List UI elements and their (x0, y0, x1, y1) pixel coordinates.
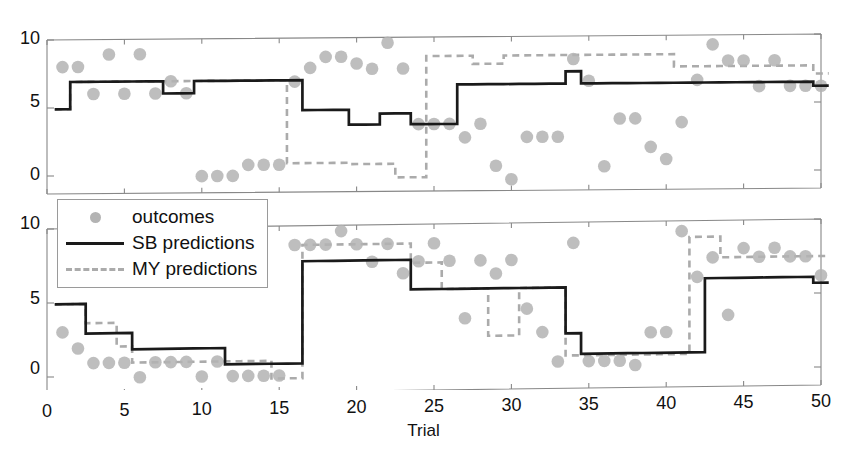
legend-item-my: MY predictions (64, 256, 259, 282)
outcome-point (412, 255, 425, 268)
outcome-point (583, 74, 596, 87)
outcome-point (103, 357, 116, 370)
top-ytick-10: 10 (4, 28, 40, 49)
outcome-point (737, 242, 750, 255)
outcome-point (613, 112, 626, 125)
series-outcomes (56, 37, 827, 186)
outcome-point (474, 254, 487, 267)
outcome-point (490, 159, 503, 172)
outcome-point (273, 158, 286, 171)
outcome-point (737, 54, 750, 67)
outcome-point (72, 61, 85, 74)
outcome-point (165, 75, 178, 88)
series-my-predictions (55, 54, 829, 177)
outcome-point (103, 48, 116, 61)
outcome-point (149, 87, 162, 100)
outcome-point (226, 170, 239, 183)
outcome-point (273, 369, 286, 382)
outcome-point (660, 326, 673, 339)
x-axis-title: Trial (0, 421, 847, 441)
outcome-point (722, 54, 735, 67)
top-ytick-5: 5 (4, 91, 40, 112)
outcome-point (459, 312, 472, 325)
x-tick-label-10: 10 (182, 399, 222, 420)
outcome-point (196, 370, 209, 383)
outcome-point (118, 88, 131, 101)
legend: outcomes SB predictions MY predictions (57, 199, 268, 288)
x-tick-label-15: 15 (259, 398, 299, 419)
legend-label-outcomes: outcomes (126, 206, 214, 228)
outcome-point (629, 359, 642, 372)
outcome-point (288, 239, 301, 252)
x-tick-label-30: 30 (491, 395, 531, 416)
outcome-point (304, 62, 317, 75)
outcome-point (706, 38, 719, 51)
outcome-point (397, 267, 410, 280)
outcome-point (428, 237, 441, 250)
outcome-point (536, 326, 549, 339)
bottom-ytick-0: 0 (4, 358, 40, 379)
outcome-point (768, 241, 781, 254)
legend-dashed-line-icon (64, 268, 126, 271)
outcome-point (799, 250, 812, 263)
x-tick-label-45: 45 (724, 392, 764, 413)
outcome-point (613, 354, 626, 367)
outcome-point (381, 37, 394, 50)
outcome-point (536, 131, 549, 144)
outcome-point (706, 251, 719, 264)
outcome-point (211, 355, 224, 368)
x-tick-label-20: 20 (337, 397, 377, 418)
x-tick-label-40: 40 (646, 393, 686, 414)
top-panel-plot (0, 0, 847, 205)
outcome-point (629, 112, 642, 125)
outcome-point (180, 356, 193, 369)
outcome-point (304, 239, 317, 252)
outcome-point (87, 357, 100, 370)
outcome-point (134, 371, 147, 384)
legend-item-sb: SB predictions (64, 230, 259, 256)
outcome-point (72, 342, 85, 355)
outcome-point (490, 267, 503, 280)
outcome-point (443, 255, 456, 268)
outcome-point (134, 48, 147, 61)
figure-container: 10 5 0 10 5 0 05101520253035404550 Trial… (0, 0, 847, 454)
outcome-point (196, 170, 209, 183)
outcome-point (319, 51, 332, 64)
outcome-point (397, 62, 410, 75)
x-tick-label-5: 5 (104, 400, 144, 421)
outcome-point (257, 159, 270, 172)
outcome-point (644, 141, 657, 154)
legend-marker-circle-icon (64, 212, 126, 223)
outcome-point (815, 269, 828, 282)
bottom-ytick-5: 5 (4, 288, 40, 309)
outcome-point (598, 355, 611, 368)
outcome-point (505, 173, 518, 186)
outcome-point (242, 159, 255, 172)
outcome-point (753, 251, 766, 264)
outcome-point (319, 238, 332, 251)
top-panel (0, 0, 847, 205)
outcome-point (722, 309, 735, 322)
outcome-point (366, 256, 379, 269)
outcome-point (660, 153, 673, 166)
outcome-point (335, 50, 348, 63)
outcome-point (552, 355, 565, 368)
outcome-point (459, 131, 472, 144)
outcome-point (675, 116, 688, 129)
outcome-point (257, 369, 270, 382)
outcome-point (784, 250, 797, 263)
legend-item-outcomes: outcomes (64, 204, 259, 230)
axis-frame (47, 34, 821, 194)
outcome-point (474, 117, 487, 130)
outcome-point (691, 271, 704, 284)
outcome-point (242, 370, 255, 383)
outcome-point (165, 356, 178, 369)
outcome-point (567, 237, 580, 250)
outcome-point (567, 53, 580, 66)
outcome-point (118, 356, 131, 369)
outcome-point (350, 238, 363, 251)
outcome-point (87, 88, 100, 101)
top-ytick-0: 0 (4, 164, 40, 185)
x-tick-label-35: 35 (569, 394, 609, 415)
x-tick-label-0: 0 (27, 401, 67, 422)
